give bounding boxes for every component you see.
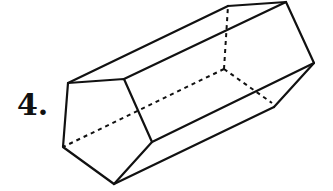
front-face [63, 79, 152, 184]
pentagonal-prism-figure [0, 0, 333, 191]
back-face-visible [228, 2, 314, 107]
edge-top-left [68, 6, 228, 83]
hidden-edge-back-up [224, 6, 228, 69]
edge-top-right [124, 2, 286, 79]
edge-bottom [114, 107, 274, 184]
